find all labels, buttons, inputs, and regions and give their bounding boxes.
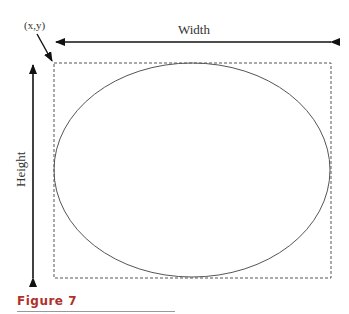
- height-label: Height: [13, 151, 28, 187]
- caption-rule: [17, 311, 175, 312]
- ellipse-shape: [54, 63, 330, 277]
- width-label: Width: [178, 22, 210, 37]
- figure-caption: Figure 7: [17, 294, 77, 308]
- origin-label: (x,y): [24, 19, 45, 32]
- ellipse-diagram: (x,y) Width Height: [0, 0, 349, 314]
- origin-pointer-arrow: [37, 34, 52, 61]
